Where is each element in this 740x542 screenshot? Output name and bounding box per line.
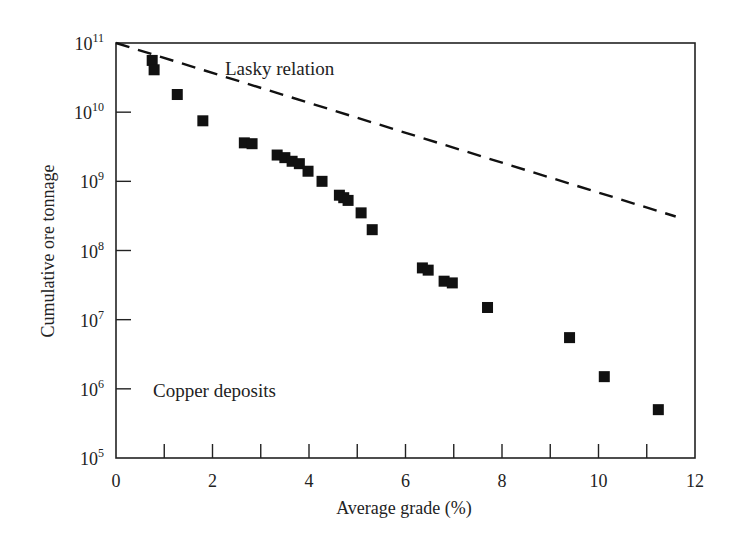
y-axis-ticks: 10510610710810910101011: [74, 31, 131, 469]
data-point-square: [564, 332, 575, 343]
x-tick-label: 10: [590, 471, 608, 491]
x-axis-title: Average grade (%): [336, 498, 472, 519]
data-point-square: [317, 176, 328, 187]
data-point-square: [149, 64, 160, 75]
y-tick-label: 1011: [74, 31, 104, 54]
data-point-square: [653, 404, 664, 415]
data-point-square: [147, 55, 158, 66]
lasky-fit-line: [116, 43, 676, 217]
annotation-copper-deposits: Copper deposits: [153, 380, 276, 401]
y-tick-label: 106: [80, 377, 104, 400]
y-tick-label: 108: [80, 239, 104, 262]
y-tick-label: 109: [80, 169, 104, 192]
x-tick-label: 2: [208, 471, 217, 491]
data-point-square: [303, 166, 314, 177]
x-axis-ticks: 024681012: [112, 444, 705, 491]
data-point-square: [482, 302, 493, 313]
x-tick-label: 6: [401, 471, 410, 491]
x-tick-label: 0: [112, 471, 121, 491]
data-point-square: [172, 89, 183, 100]
y-axis-title: Cumulative ore tonnage: [38, 165, 58, 338]
annotation-lasky-relation: Lasky relation: [225, 58, 335, 79]
lasky-dashed-line: [116, 43, 676, 217]
data-point-square: [247, 138, 258, 149]
data-point-square: [599, 371, 610, 382]
data-point-square: [423, 265, 434, 276]
scatter-chart: 024681012 10510610710810910101011 Lasky …: [0, 0, 740, 542]
data-point-square: [447, 277, 458, 288]
y-tick-label: 107: [80, 308, 104, 331]
y-tick-label: 1010: [74, 100, 104, 123]
data-point-square: [367, 224, 378, 235]
x-tick-label: 8: [498, 471, 507, 491]
data-points: [147, 55, 664, 415]
data-point-square: [356, 207, 367, 218]
x-tick-label: 4: [305, 471, 314, 491]
y-tick-label: 105: [80, 446, 104, 469]
x-tick-label: 12: [686, 471, 704, 491]
data-point-square: [343, 195, 354, 206]
data-point-square: [197, 115, 208, 126]
